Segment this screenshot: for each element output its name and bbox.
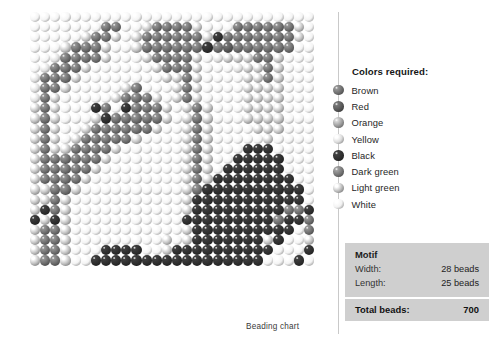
bead: [40, 144, 50, 154]
bead: [243, 53, 253, 63]
bead: [273, 134, 283, 144]
bead: [50, 144, 60, 154]
bead: [182, 134, 192, 144]
bead: [202, 12, 212, 22]
bead-swatch-icon: [333, 183, 344, 194]
bead: [304, 134, 314, 144]
bead: [50, 245, 60, 255]
bead: [81, 93, 91, 103]
bead: [202, 83, 212, 93]
bead: [101, 12, 111, 22]
bead: [233, 83, 243, 93]
bead: [294, 225, 304, 235]
bead: [101, 205, 111, 215]
bead: [121, 53, 131, 63]
bead: [40, 134, 50, 144]
bead: [192, 215, 202, 225]
bead: [121, 32, 131, 42]
bead: [162, 144, 172, 154]
bead: [71, 22, 81, 32]
bead: [304, 225, 314, 235]
bead: [142, 235, 152, 245]
bead: [131, 184, 141, 194]
bead: [182, 164, 192, 174]
bead: [111, 235, 121, 245]
bead: [233, 42, 243, 52]
bead: [111, 225, 121, 235]
bead: [304, 124, 314, 134]
bead-swatch-icon: [333, 117, 344, 128]
bead: [284, 134, 294, 144]
bead: [50, 174, 60, 184]
bead: [192, 174, 202, 184]
motif-width-label: Width:: [355, 263, 381, 277]
bead: [142, 83, 152, 93]
bead: [243, 134, 253, 144]
bead: [71, 134, 81, 144]
bead: [71, 83, 81, 93]
bead: [152, 22, 162, 32]
bead: [71, 225, 81, 235]
bead: [60, 144, 70, 154]
bead: [162, 113, 172, 123]
bead: [81, 53, 91, 63]
bead: [263, 32, 273, 42]
bead: [60, 134, 70, 144]
bead: [50, 63, 60, 73]
bead: [294, 235, 304, 245]
bead: [182, 83, 192, 93]
bead: [142, 53, 152, 63]
bead: [60, 255, 70, 265]
bead: [30, 225, 40, 235]
bead: [273, 63, 283, 73]
bead: [223, 134, 233, 144]
bead: [60, 225, 70, 235]
bead: [111, 12, 121, 22]
bead: [81, 174, 91, 184]
bead: [121, 195, 131, 205]
bead: [172, 215, 182, 225]
bead-grid: [30, 12, 314, 266]
bead: [152, 235, 162, 245]
bead: [71, 113, 81, 123]
bead: [71, 154, 81, 164]
bead: [223, 184, 233, 194]
bead: [60, 245, 70, 255]
bead: [71, 103, 81, 113]
bead: [172, 83, 182, 93]
bead: [111, 73, 121, 83]
bead: [263, 215, 273, 225]
bead: [202, 73, 212, 83]
bead: [81, 22, 91, 32]
bead: [243, 164, 253, 174]
bead: [71, 32, 81, 42]
bead: [142, 245, 152, 255]
bead: [192, 73, 202, 83]
motif-length-row: Length: 25 beads: [355, 277, 479, 291]
bead: [152, 124, 162, 134]
bead: [60, 195, 70, 205]
bead: [152, 205, 162, 215]
bead: [131, 124, 141, 134]
bead: [182, 53, 192, 63]
bead: [101, 164, 111, 174]
bead: [192, 103, 202, 113]
bead: [172, 103, 182, 113]
bead: [294, 134, 304, 144]
bead: [162, 83, 172, 93]
bead: [233, 113, 243, 123]
bead: [121, 83, 131, 93]
bead: [162, 225, 172, 235]
bead: [40, 22, 50, 32]
bead: [111, 164, 121, 174]
bead: [192, 134, 202, 144]
bead: [40, 83, 50, 93]
bead: [284, 12, 294, 22]
bead: [142, 184, 152, 194]
bead: [243, 124, 253, 134]
bead: [253, 32, 263, 42]
bead-chart-panel: Beading chart: [0, 0, 330, 346]
legend-item-label: Dark green: [352, 166, 399, 177]
bead: [50, 42, 60, 52]
bead: [40, 42, 50, 52]
